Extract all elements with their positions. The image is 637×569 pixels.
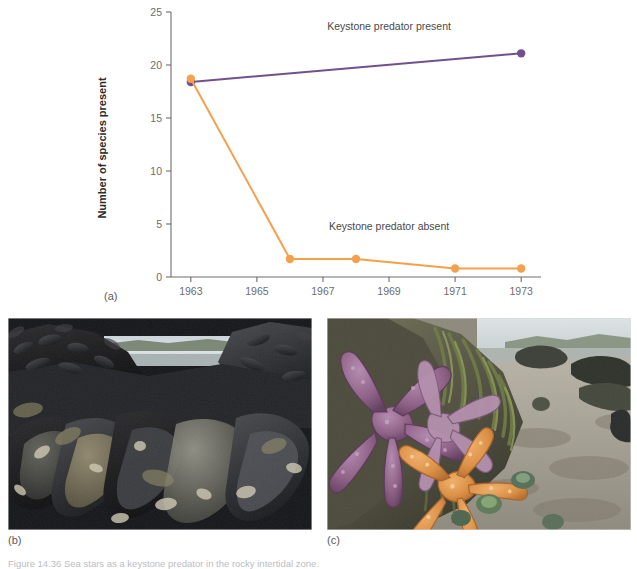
figure-caption: Figure 14.36 Sea stars as a keystone pre…	[8, 558, 628, 569]
data-point	[187, 75, 195, 83]
panel-label-c: (c)	[327, 534, 340, 546]
mussel-bed-photo	[8, 318, 312, 530]
mussel-bed-illustration	[8, 318, 312, 530]
y-tick-label: 10	[150, 165, 162, 177]
sea-star-photo	[327, 318, 631, 530]
chart-tick-labels: 0510152025196319651967196919711973	[150, 6, 533, 297]
chart-series	[187, 49, 526, 273]
x-tick-label: 1965	[245, 285, 269, 297]
y-tick-label: 15	[150, 112, 162, 124]
x-tick-label: 1963	[179, 285, 203, 297]
chart-axes	[166, 12, 541, 282]
series-annotation-1: Keystone predator absent	[329, 220, 449, 232]
data-point	[286, 255, 294, 263]
species-richness-line-chart: 0510152025196319651967196919711973 Keyst…	[0, 0, 637, 310]
y-axis-title: Number of species present	[96, 77, 108, 219]
panel-label-a: (a)	[104, 290, 117, 302]
series-line-0	[191, 53, 521, 82]
series-line-1	[191, 79, 521, 269]
x-tick-label: 1969	[377, 285, 401, 297]
data-point	[352, 255, 360, 263]
data-point	[517, 49, 525, 57]
x-tick-label: 1973	[509, 285, 533, 297]
chart-annotations: Keystone predator presentKeystone predat…	[327, 20, 451, 232]
y-tick-label: 25	[150, 6, 162, 18]
series-annotation-0: Keystone predator present	[327, 20, 451, 32]
data-point	[517, 264, 525, 272]
y-tick-label: 5	[156, 218, 162, 230]
x-tick-label: 1967	[311, 285, 335, 297]
y-tick-label: 0	[156, 271, 162, 283]
y-tick-label: 20	[150, 59, 162, 71]
sea-star-illustration	[327, 318, 631, 530]
data-point	[451, 264, 459, 272]
x-tick-label: 1971	[443, 285, 467, 297]
panel-label-b: (b)	[8, 534, 21, 546]
chart-panel-a: 0510152025196319651967196919711973 Keyst…	[0, 0, 637, 310]
